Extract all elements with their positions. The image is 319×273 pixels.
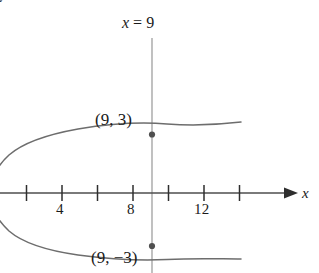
y-axis-label: y <box>0 0 13 2</box>
point-label-9-3: (9, 3) <box>95 111 132 128</box>
x-tick-label-8: 8 <box>127 202 135 217</box>
graph-figure: y x = 9 (9, 3) (9, −3) 4 8 12 x <box>0 0 319 273</box>
point-marker-9-neg3 <box>149 243 155 249</box>
vertical-line-label-variable: x <box>122 14 129 31</box>
vertical-line-label-equation: = 9 <box>133 14 154 31</box>
vertical-line-label: x = 9 <box>122 15 154 31</box>
x-tick-label-4: 4 <box>56 202 64 217</box>
parabola-plot <box>0 0 319 273</box>
point-marker-9-3 <box>149 131 155 137</box>
x-axis-label: x <box>302 186 309 201</box>
x-tick-label-12: 12 <box>194 202 209 217</box>
x-axis-arrowhead <box>284 188 298 199</box>
point-label-9-neg3: (9, −3) <box>91 249 137 266</box>
parabola-upper-branch <box>0 122 241 193</box>
